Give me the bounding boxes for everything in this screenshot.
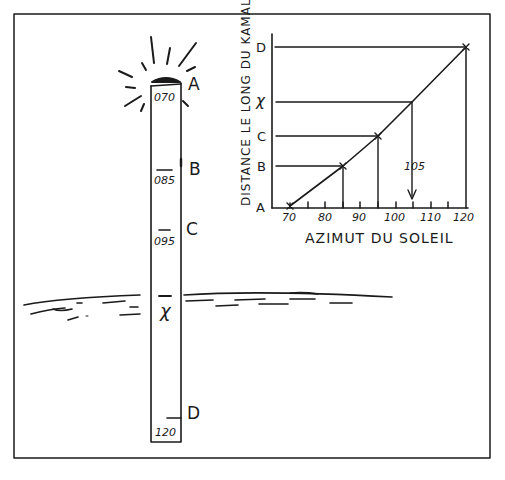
svg-text:A: A [188,74,200,94]
svg-text:D: D [187,403,200,423]
svg-text:C: C [186,219,198,239]
figure-caption [10,466,495,476]
svg-text:085: 085 [154,174,175,187]
svg-text:120: 120 [453,211,474,224]
calibration-chart: 70 80 90 100 110 120 AZIMUT DU SOLEIL A … [239,0,474,246]
svg-text:χ: χ [255,92,266,110]
x-tick-labels: 70 80 90 100 110 120 [282,211,474,224]
svg-text:χ: χ [159,300,172,321]
interpolated-value-label: 105 [404,160,425,173]
guide-lines [275,47,466,207]
y-axis-title: DISTANCE LE LONG DU KAMAL [239,0,253,206]
svg-text:095: 095 [154,235,175,248]
svg-text:A: A [256,200,265,215]
svg-text:C: C [257,129,266,144]
y-tick-labels: A B C χ D [255,40,266,215]
kamal-mark-c: 095 C [154,219,198,248]
svg-text:B: B [257,159,266,174]
svg-text:90: 90 [352,211,366,224]
svg-text:70: 70 [282,211,296,224]
svg-text:120: 120 [155,426,176,439]
svg-text:D: D [256,40,266,55]
sea-horizon [24,293,392,320]
x-axis-title: AZIMUT DU SOLEIL [305,230,454,246]
kamal-mark-x: χ [159,296,172,321]
svg-text:070: 070 [154,91,175,104]
kamal-diagram: 070 A 085 B 095 C χ 120 D [0,0,505,480]
kamal-mark-d: 120 D [155,403,200,439]
svg-text:B: B [189,159,201,179]
svg-text:80: 80 [318,211,332,224]
svg-text:110: 110 [420,211,441,224]
kamal-mark-b: 085 B [154,159,201,187]
kamal-board: 070 A 085 B 095 C χ 120 D [151,74,201,442]
svg-text:100: 100 [384,211,405,224]
